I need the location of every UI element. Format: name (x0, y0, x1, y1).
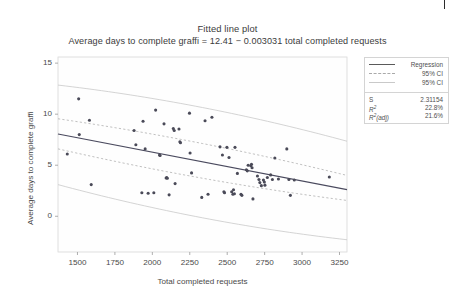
data-point (162, 122, 165, 125)
data-point (257, 178, 260, 181)
figure-canvas: Fitted line plot Average days to complet… (0, 0, 455, 307)
data-point (144, 147, 147, 150)
x-tick-label: 2750 (245, 258, 285, 267)
statistic-row: R2(adj)21.6% (369, 112, 444, 120)
legend-line-sample-icon (369, 64, 395, 65)
data-point (210, 116, 213, 119)
statistic-label: R2 (369, 104, 403, 112)
data-point (189, 151, 192, 154)
data-point (263, 184, 266, 187)
plot-frame (58, 57, 347, 252)
data-point (177, 127, 180, 130)
data-point (152, 191, 155, 194)
data-point (166, 177, 169, 180)
data-point (269, 173, 272, 176)
data-point (271, 178, 274, 181)
statistic-label: S (369, 96, 403, 104)
legend-box: Regression95% CI95% CI S2.31154R222.8%R2… (364, 57, 449, 124)
data-point (236, 172, 239, 175)
statistic-label-text: S (369, 96, 373, 103)
data-point (227, 156, 230, 159)
legend-keys: Regression95% CI95% CI (365, 58, 448, 91)
data-point (221, 153, 224, 156)
x-tick-label: 1750 (95, 258, 135, 267)
statistic-label: R2(adj) (369, 112, 403, 120)
data-point (256, 174, 259, 177)
legend-key-label: 95% CI (395, 79, 444, 87)
data-point (142, 120, 145, 123)
y-tick-label: 5 (36, 160, 52, 169)
data-point (260, 184, 263, 187)
data-point (233, 146, 236, 149)
legend-statistics: S2.31154R222.8%R2(adj)21.6% (365, 93, 448, 123)
y-tick-label: 15 (36, 58, 52, 67)
data-point (168, 193, 171, 196)
data-point (154, 109, 157, 112)
data-point (277, 177, 280, 180)
statistic-row: S2.31154 (369, 96, 444, 104)
x-axis-label: Total completed requests (58, 277, 347, 286)
data-point (287, 178, 290, 181)
statistic-value: 21.6% (403, 112, 444, 120)
data-point (179, 141, 182, 144)
data-point (206, 193, 209, 196)
statistic-superscript: 2 (374, 105, 377, 110)
x-tick-label: 2000 (132, 258, 172, 267)
data-point (190, 171, 193, 174)
data-point (173, 129, 176, 132)
x-tick-label: 2250 (170, 258, 210, 267)
x-tick-label: 1500 (57, 258, 97, 267)
statistic-suffix: (adj) (376, 114, 389, 121)
data-point (232, 188, 235, 191)
data-point (200, 196, 203, 199)
data-point (240, 194, 243, 197)
y-axis-label: Average days to complete graffi (26, 111, 35, 225)
data-point (273, 157, 276, 160)
legend-line-sample-icon (369, 82, 395, 83)
data-point (247, 164, 250, 167)
x-tick-label: 2500 (207, 258, 247, 267)
legend-key-label: 95% CI (395, 70, 444, 78)
y-tick-label: 0 (36, 211, 52, 220)
data-point (78, 133, 81, 136)
data-point (225, 146, 228, 149)
data-point (147, 192, 150, 195)
data-point (285, 147, 288, 150)
data-point (293, 178, 296, 181)
data-point (251, 197, 254, 200)
legend-key-row: 95% CI (369, 70, 444, 78)
data-point (90, 183, 93, 186)
data-point (223, 191, 226, 194)
data-point (250, 163, 253, 166)
data-point (159, 154, 162, 157)
legend-key-row: Regression (369, 61, 444, 69)
x-tick-label: 3000 (282, 258, 322, 267)
statistic-value: 22.8% (403, 104, 444, 112)
data-point (266, 176, 269, 179)
data-point (328, 175, 331, 178)
data-point (188, 112, 191, 115)
data-point (251, 166, 254, 169)
legend-key-row: 95% CI (369, 79, 444, 87)
data-point (246, 169, 249, 172)
data-point (77, 97, 80, 100)
data-point (263, 181, 266, 184)
data-point (204, 119, 207, 122)
legend-key-label: Regression (395, 61, 444, 69)
data-point (174, 182, 177, 185)
data-point (88, 119, 91, 122)
data-point (289, 194, 292, 197)
statistic-row: R222.8% (369, 104, 444, 112)
data-point (133, 129, 136, 132)
data-point (140, 191, 143, 194)
data-point (134, 143, 137, 146)
data-point (218, 145, 221, 148)
data-point (233, 192, 236, 195)
x-tick-label: 3250 (320, 258, 360, 267)
y-tick-label: 10 (36, 109, 52, 118)
statistic-value: 2.31154 (403, 96, 444, 104)
data-point (258, 181, 261, 184)
data-point (66, 152, 69, 155)
legend-line-sample-icon (369, 73, 395, 74)
